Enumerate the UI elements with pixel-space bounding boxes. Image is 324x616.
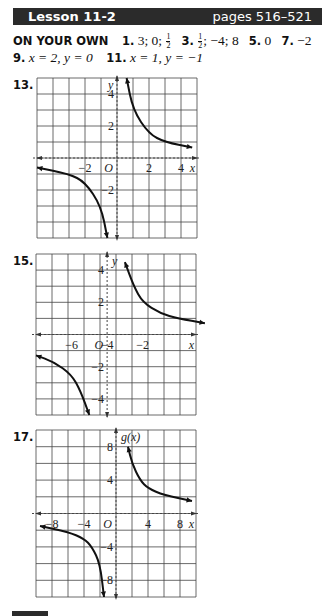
- graph-15: −6−4−242−2−4Oxy: [36, 254, 196, 415]
- y-axis-label: y: [107, 78, 114, 92]
- x-axis-label: x: [188, 338, 195, 352]
- answer-text: 0: [265, 33, 272, 48]
- x-tick-label: −2: [79, 161, 92, 175]
- y-tick-label: −4: [100, 540, 113, 554]
- answers-line-1: ON YOUR OWN 1. 3; 0; 12 3. 12; −4; 8 5. …: [13, 33, 312, 50]
- x-tick-label: −6: [65, 338, 78, 352]
- x-tick-label: −8: [46, 517, 59, 531]
- graph-13: −22442−2Oxy: [37, 78, 197, 238]
- origin-label: O: [94, 338, 103, 352]
- answer-text: 3; 0;: [138, 33, 166, 48]
- x-tick-label: −4: [78, 517, 91, 531]
- answers-line-2: 9. x = 2, y = 0 11. x = 1, y = −1: [13, 50, 203, 66]
- origin-label: O: [104, 161, 113, 175]
- y-tick-label: 2: [98, 295, 104, 309]
- fraction: 12: [198, 33, 202, 50]
- answer-number: 5.: [249, 34, 261, 48]
- y-tick-label: 2: [108, 119, 114, 133]
- answer-text: −2: [297, 33, 311, 48]
- y-axis-label: y: [111, 254, 118, 268]
- answer-number: 7.: [281, 34, 293, 48]
- footer-tab-block: [12, 611, 48, 616]
- graph-17: −8−44884−4−8Oxg(x): [36, 430, 196, 597]
- y-tick-label: −2: [101, 183, 114, 197]
- fraction: 12: [166, 33, 170, 50]
- answer-text: x = 2, y = 0: [29, 50, 93, 65]
- x-tick-label: 4: [145, 517, 151, 531]
- lesson-header-bar: Lesson 11-2 pages 516–521: [13, 8, 322, 25]
- x-tick-label: 2: [146, 161, 152, 175]
- answer-number: 11.: [106, 51, 126, 65]
- answer-number: 1.: [122, 34, 134, 48]
- y-tick-label: −8: [100, 573, 113, 587]
- section-label: ON YOUR OWN: [13, 34, 108, 48]
- y-tick-label: −2: [91, 360, 104, 374]
- answer-text: x = 1, y = −1: [130, 50, 203, 65]
- x-axis-label: x: [189, 161, 196, 175]
- x-tick-label: 8: [177, 517, 183, 531]
- y-tick-label: 4: [107, 473, 113, 487]
- exercise-number-13: 13.: [13, 78, 33, 92]
- exercise-number-15: 15.: [13, 254, 33, 268]
- x-tick-label: −2: [136, 338, 149, 352]
- y-tick-label: 4: [98, 263, 104, 277]
- origin-label: O: [103, 517, 112, 531]
- x-axis-label: x: [188, 517, 195, 531]
- answer-number: 9.: [13, 51, 25, 65]
- y-axis-label: g(x): [121, 430, 140, 444]
- answer-text: ; −4; 8: [203, 33, 238, 48]
- lesson-title: Lesson 11-2: [28, 8, 116, 25]
- page-range: pages 516–521: [213, 8, 313, 25]
- y-tick-label: 8: [107, 440, 113, 454]
- answer-number: 3.: [182, 34, 194, 48]
- exercise-number-17: 17.: [13, 430, 33, 444]
- x-tick-label: 4: [178, 161, 184, 175]
- y-tick-label: −4: [91, 392, 104, 406]
